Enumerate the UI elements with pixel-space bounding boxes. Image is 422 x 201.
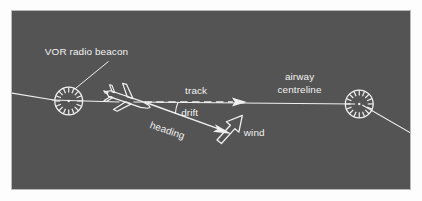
vor-label-leader-line [75, 61, 109, 89]
heading-label: heading [149, 119, 187, 141]
drift-angle-arc-icon [175, 102, 178, 113]
airway-centreline-label-line1: airway [285, 71, 314, 82]
diagram-panel: VOR radio beacon track [11, 10, 411, 190]
airway-centreline-label-line2: centreline [278, 84, 322, 95]
aircraft-plan-view-icon [99, 78, 155, 121]
navigation-diagram: VOR radio beacon track [12, 11, 410, 189]
track-label: track [185, 85, 207, 96]
figure-root: VOR radio beacon track [0, 0, 422, 201]
vor-beacon-label: VOR radio beacon [45, 47, 128, 58]
vor-compass-rose-icon [55, 87, 83, 115]
wind-label: wind [243, 127, 265, 138]
dashed-track-arrow-icon [144, 98, 246, 107]
vor-compass-rose-icon [345, 90, 373, 118]
